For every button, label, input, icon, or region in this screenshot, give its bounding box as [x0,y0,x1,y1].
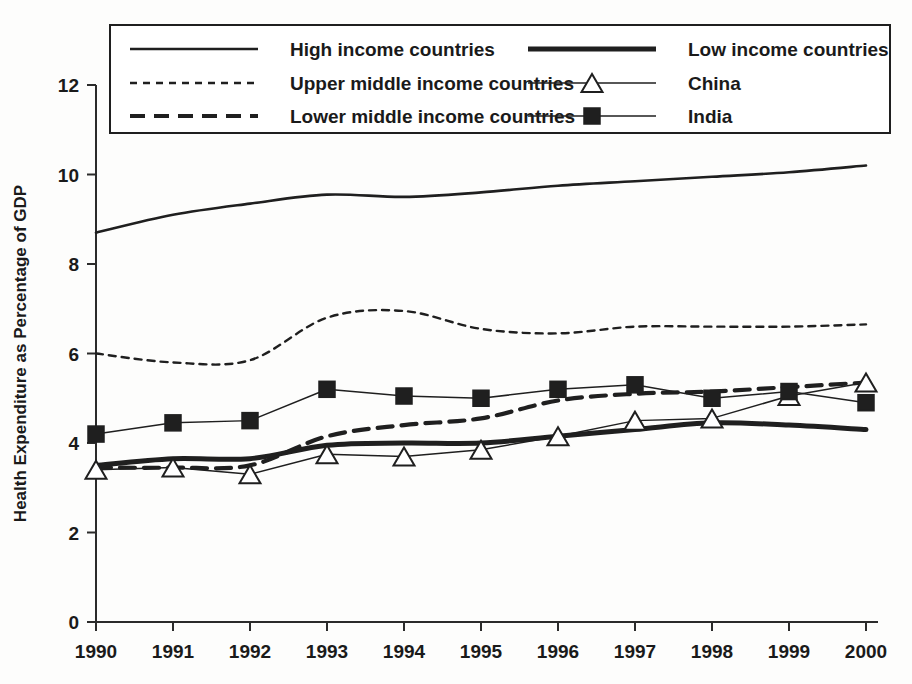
data-point-marker-square [550,381,566,397]
chart-legend: High income countriesLow income countrie… [110,25,890,133]
x-tick-label: 1993 [306,641,348,662]
chart-series-group [86,166,877,484]
x-tick-label: 1999 [768,641,810,662]
x-tick-label: 1997 [614,641,656,662]
legend-label-india[interactable]: India [688,106,733,127]
legend-label-china[interactable]: China [688,73,741,94]
x-tick-label: 2000 [845,641,887,662]
x-tick-label: 1990 [75,641,117,662]
data-point-marker-square [165,415,181,431]
axis-lines [96,85,878,622]
chart-container: 024681012 199019911992199319941995199619… [0,0,912,684]
y-tick-label: 10 [58,165,79,186]
y-tick-label: 0 [68,612,79,633]
data-point-marker-square [473,390,489,406]
legend-label-high-income-countries[interactable]: High income countries [290,39,495,60]
x-tick-label: 1998 [691,641,733,662]
chart-axes [96,85,878,622]
data-point-marker-square [242,413,258,429]
data-point-marker-square [704,390,720,406]
line-chart: 024681012 199019911992199319941995199619… [0,0,912,684]
data-point-marker-square [781,384,797,400]
x-tick-label: 1995 [460,641,503,662]
y-tick-label: 4 [68,433,79,454]
y-axis-ticks: 024681012 [58,75,96,633]
x-tick-label: 1991 [152,641,195,662]
y-axis-label-text: Health Expenditure as Percentage of GDP [11,185,30,522]
x-axis-ticks: 1990199119921993199419951996199719981999… [75,622,887,662]
legend-label-low-income-countries[interactable]: Low income countries [688,39,889,60]
x-tick-label: 1994 [383,641,426,662]
y-tick-label: 8 [68,254,79,275]
x-tick-label: 1992 [229,641,271,662]
data-point-marker-square [396,388,412,404]
data-point-marker-square [319,381,335,397]
x-tick-label: 1996 [537,641,579,662]
y-tick-label: 2 [68,523,79,544]
data-point-marker-square [858,395,874,411]
y-axis-title: Health Expenditure as Percentage of GDP [11,185,30,522]
y-tick-label: 12 [58,75,79,96]
series-line-upper-middle-income-countries [96,310,866,365]
data-point-marker-square [88,426,104,442]
data-point-marker-square [627,377,643,393]
series-line-high-income-countries [96,166,866,233]
legend-marker-square [584,108,600,124]
y-tick-label: 6 [68,344,79,365]
